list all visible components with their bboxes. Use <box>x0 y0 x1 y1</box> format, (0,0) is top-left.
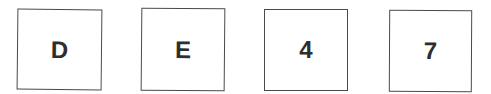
card-d[interactable]: D <box>17 9 103 91</box>
card-label: D <box>51 37 69 61</box>
card-7[interactable]: 7 <box>389 10 472 92</box>
card-4[interactable]: 4 <box>264 9 348 91</box>
card-label: 7 <box>424 39 437 63</box>
card-label: 4 <box>299 38 312 62</box>
card-e[interactable]: E <box>141 8 226 92</box>
card-label: E <box>175 37 191 61</box>
